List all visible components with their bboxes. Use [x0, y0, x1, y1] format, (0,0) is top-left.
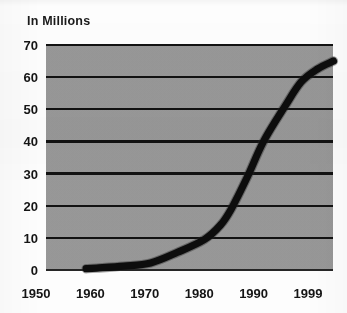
- x-tick-label-1980: 1980: [185, 286, 214, 301]
- x-tick-label-1990: 1990: [239, 286, 268, 301]
- x-tick-label-1960: 1960: [76, 286, 105, 301]
- chart-figure: In Millions 706050403020100 195019601970…: [0, 0, 347, 313]
- plot-area: [46, 45, 333, 270]
- x-axis-tick-labels: 195019601970198019901999: [0, 286, 347, 310]
- series-line: [86, 61, 333, 269]
- y-tick-label-70: 70: [24, 38, 38, 53]
- y-axis-tick-labels: 706050403020100: [0, 0, 46, 313]
- y-tick-label-10: 10: [24, 230, 38, 245]
- y-tick-label-60: 60: [24, 70, 38, 85]
- y-tick-label-20: 20: [24, 198, 38, 213]
- x-tick-label-1970: 1970: [130, 286, 159, 301]
- x-tick-label-1999: 1999: [294, 286, 323, 301]
- y-tick-label-50: 50: [24, 102, 38, 117]
- x-tick-label-1950: 1950: [22, 286, 51, 301]
- data-series-line: [46, 45, 333, 270]
- y-tick-label-0: 0: [31, 263, 38, 278]
- y-tick-label-40: 40: [24, 134, 38, 149]
- y-tick-label-30: 30: [24, 166, 38, 181]
